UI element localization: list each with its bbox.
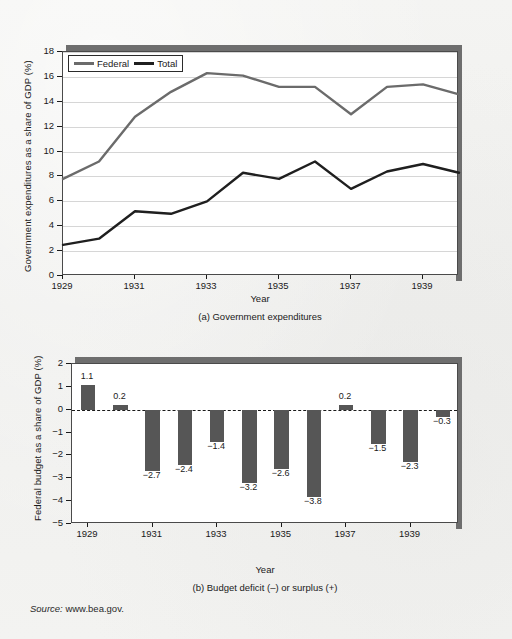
y-tick-mark (66, 386, 71, 387)
x-tick-mark (216, 523, 217, 527)
x-tick-label: 1929 (67, 529, 107, 539)
y-tick-label: 1 (39, 381, 63, 391)
y-tick-label: 0 (39, 404, 63, 414)
bar (403, 410, 418, 463)
bar-value-label: 0.2 (323, 392, 367, 401)
y-tick-label: −3 (39, 472, 63, 482)
bar (178, 410, 193, 465)
y-tick-mark (66, 409, 71, 410)
legend-swatch-total (134, 62, 154, 65)
bar (81, 385, 96, 410)
panel-b-plot-area (71, 363, 458, 523)
x-tick-mark (152, 523, 153, 527)
x-tick-label: 1935 (261, 529, 301, 539)
bar (339, 405, 354, 410)
legend-label-federal: Federal (97, 59, 129, 69)
y-tick-mark (66, 523, 71, 524)
y-tick-label: −2 (39, 449, 63, 459)
x-tick-label: 1939 (390, 529, 430, 539)
bar-value-label: −2.6 (259, 469, 303, 478)
x-tick-mark (87, 523, 88, 527)
x-tick-label: 1939 (402, 281, 442, 291)
x-tick-mark (345, 523, 346, 527)
y-tick-label: 18 (30, 46, 54, 56)
panel-b-caption: (b) Budget deficit (–) or surplus (+) (145, 582, 385, 593)
panel-a-plot-area (62, 51, 458, 275)
source-note-url: www.bea.gov. (65, 603, 123, 614)
x-tick-mark (134, 275, 135, 279)
x-tick-label: 1937 (330, 281, 370, 291)
bar (113, 405, 128, 410)
bar (274, 410, 289, 469)
bar (210, 410, 225, 442)
y-tick-mark (66, 432, 71, 433)
bar (242, 410, 257, 483)
panel-a-series-layer (63, 52, 459, 276)
y-tick-label: −4 (39, 495, 63, 505)
x-tick-mark (206, 275, 207, 279)
y-tick-label: 4 (30, 220, 54, 230)
panel-a-y-axis-title: Government expenditures as a share of GD… (22, 60, 33, 272)
bar-value-label: −1.5 (355, 444, 399, 453)
panel-a-caption: (a) Government expenditures (140, 311, 380, 322)
y-tick-mark (57, 51, 62, 52)
zero-baseline (72, 410, 457, 411)
x-tick-mark (281, 523, 282, 527)
source-note-prefix: Source: (30, 603, 63, 614)
bar (371, 410, 386, 444)
y-tick-mark (57, 126, 62, 127)
x-tick-label: 1933 (186, 281, 226, 291)
y-tick-label: −1 (39, 427, 63, 437)
bar (307, 410, 322, 497)
bar-value-label: −1.4 (194, 442, 238, 451)
legend-entry-total: Total (134, 59, 177, 69)
x-tick-label: 1935 (258, 281, 298, 291)
bar-value-label: 1.1 (65, 372, 109, 381)
legend-swatch-federal (74, 62, 94, 65)
series-line-total (63, 73, 459, 179)
x-tick-label: 1937 (325, 529, 365, 539)
y-tick-mark (57, 76, 62, 77)
y-tick-mark (57, 225, 62, 226)
y-tick-label: 14 (30, 96, 54, 106)
panel-a-legend: Federal Total (68, 55, 183, 72)
series-line-federal (63, 162, 459, 245)
source-note: Source: www.bea.gov. (30, 603, 124, 614)
legend-entry-federal: Federal (74, 59, 129, 69)
bar-value-label: −3.2 (226, 483, 270, 492)
x-tick-mark (350, 275, 351, 279)
y-tick-mark (57, 175, 62, 176)
x-tick-label: 1931 (132, 529, 172, 539)
y-tick-label: 16 (30, 71, 54, 81)
x-tick-mark (278, 275, 279, 279)
y-tick-mark (66, 454, 71, 455)
x-tick-mark (410, 523, 411, 527)
y-tick-mark (66, 477, 71, 478)
bar-value-label: −0.3 (420, 417, 464, 426)
y-tick-label: 12 (30, 121, 54, 131)
y-tick-mark (66, 363, 71, 364)
bar-value-label: −3.8 (291, 497, 335, 506)
x-tick-label: 1933 (196, 529, 236, 539)
panel-a-x-axis-title: Year (200, 293, 320, 304)
y-tick-label: 10 (30, 146, 54, 156)
y-tick-label: 6 (30, 195, 54, 205)
bar-value-label: −2.3 (388, 462, 432, 471)
x-tick-label: 1931 (114, 281, 154, 291)
y-tick-mark (57, 101, 62, 102)
y-tick-mark (66, 500, 71, 501)
x-tick-mark (422, 275, 423, 279)
y-tick-label: 2 (30, 245, 54, 255)
bar-value-label: 0.2 (97, 392, 141, 401)
y-tick-label: 2 (39, 358, 63, 368)
panel-b-x-axis-title: Year (205, 564, 325, 575)
y-tick-label: 0 (30, 270, 54, 280)
y-tick-label: −5 (39, 518, 63, 528)
legend-label-total: Total (157, 59, 177, 69)
y-tick-mark (57, 151, 62, 152)
y-tick-mark (57, 250, 62, 251)
figure-container: Government expenditures as a share of GD… (0, 0, 512, 639)
y-tick-label: 8 (30, 170, 54, 180)
x-tick-mark (62, 275, 63, 279)
bar (145, 410, 160, 472)
